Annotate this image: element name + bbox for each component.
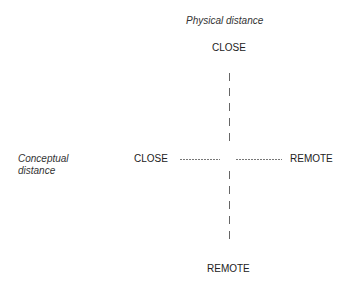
vertical-axis-top-label: CLOSE	[212, 42, 246, 54]
horizontal-axis-title-line2: distance	[18, 165, 55, 177]
horizontal-axis-right-line	[236, 159, 282, 160]
vertical-axis-lower-line	[229, 171, 230, 245]
horizontal-axis-left-label: CLOSE	[134, 153, 168, 165]
horizontal-axis-left-line	[180, 159, 220, 160]
vertical-axis-bottom-label: REMOTE	[207, 263, 250, 275]
horizontal-axis-right-label: REMOTE	[290, 153, 333, 165]
vertical-axis-upper-line	[229, 73, 230, 147]
vertical-axis-title: Physical distance	[186, 15, 263, 27]
horizontal-axis-title-line1: Conceptual	[18, 153, 69, 165]
